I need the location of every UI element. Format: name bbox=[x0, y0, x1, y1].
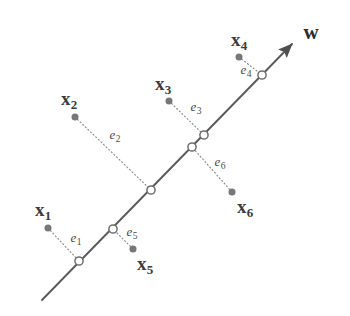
error-label-e6-subscript: 6 bbox=[221, 161, 226, 171]
point-label-x6: x6 bbox=[237, 197, 253, 219]
point-label-x6-subscript: 6 bbox=[247, 205, 254, 220]
point-label-x5-base: x bbox=[137, 253, 147, 274]
point-label-x5: x5 bbox=[137, 254, 153, 276]
projection-marker-x6 bbox=[188, 143, 196, 151]
point-label-x3-base: x bbox=[155, 73, 165, 94]
direction-vector-label-base: w bbox=[303, 20, 318, 44]
error-label-e6: e6 bbox=[215, 155, 226, 171]
projection-marker-x3 bbox=[200, 131, 208, 139]
point-label-x4-base: x bbox=[231, 29, 241, 50]
data-point-dot-x5 bbox=[130, 246, 137, 253]
point-label-x2-base: x bbox=[61, 88, 71, 109]
error-label-e4-base: e bbox=[241, 62, 247, 77]
diagram-canvas bbox=[0, 0, 350, 316]
point-label-x3: x3 bbox=[155, 74, 171, 96]
error-label-e2-subscript: 2 bbox=[116, 134, 121, 144]
error-label-e3: e3 bbox=[191, 100, 202, 116]
projection-marker-x5 bbox=[109, 225, 117, 233]
error-label-e2: e2 bbox=[110, 128, 121, 144]
projection-marker-x2 bbox=[147, 186, 155, 194]
point-label-x4-subscript: 4 bbox=[241, 38, 248, 53]
error-label-e1: e1 bbox=[71, 231, 82, 247]
data-point-dot-x4 bbox=[236, 54, 243, 61]
data-point-dot-x1 bbox=[45, 225, 52, 232]
error-label-e4: e4 bbox=[241, 63, 252, 79]
error-label-e5-subscript: 5 bbox=[133, 231, 138, 241]
data-point-dot-x6 bbox=[229, 189, 236, 196]
error-label-e3-base: e bbox=[191, 99, 197, 114]
point-label-x2-subscript: 2 bbox=[71, 97, 78, 112]
data-point-dot-x3 bbox=[166, 98, 173, 105]
point-label-x1-base: x bbox=[35, 199, 45, 220]
point-label-x1-subscript: 1 bbox=[45, 208, 52, 223]
data-point-dot-x2 bbox=[72, 114, 79, 121]
point-label-x5-subscript: 5 bbox=[147, 262, 154, 277]
point-label-x6-base: x bbox=[237, 196, 247, 217]
error-label-e2-base: e bbox=[110, 127, 116, 142]
error-label-e5-base: e bbox=[127, 224, 133, 239]
point-label-x3-subscript: 3 bbox=[165, 82, 172, 97]
error-label-e3-subscript: 3 bbox=[197, 106, 202, 116]
direction-vector-label: w bbox=[303, 22, 318, 43]
point-label-x2: x2 bbox=[61, 89, 77, 111]
error-label-e6-base: e bbox=[215, 154, 221, 169]
projection-diagram: x1x2x3x4x5x6e1e2e3e4e5e6w bbox=[0, 0, 350, 316]
point-label-x4: x4 bbox=[231, 30, 247, 52]
projection-marker-x4 bbox=[258, 71, 266, 79]
error-label-e5: e5 bbox=[127, 225, 138, 241]
error-label-e4-subscript: 4 bbox=[247, 69, 252, 79]
projection-marker-x1 bbox=[75, 257, 83, 265]
point-label-x1: x1 bbox=[35, 200, 51, 222]
error-label-e1-subscript: 1 bbox=[77, 237, 82, 247]
error-label-e1-base: e bbox=[71, 230, 77, 245]
data-point-dots-group bbox=[45, 54, 243, 253]
error-segment-x6 bbox=[192, 147, 232, 192]
